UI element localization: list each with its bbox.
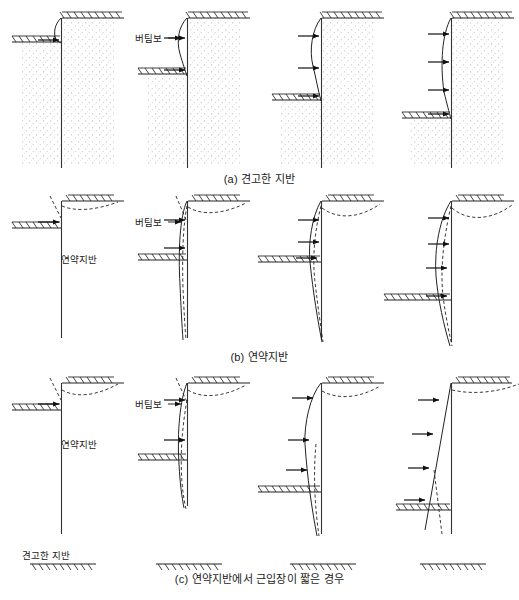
excavation-deformation-figure: 버팀보 버팀보 버팀보 연약지반 연약지반 견고한 지반 (a) 견고한 지반 … <box>0 0 519 600</box>
row-c-panel-4 <box>396 377 519 570</box>
settlement-trough <box>188 385 246 396</box>
row-c-panel-1 <box>12 377 124 570</box>
failure-line <box>176 378 187 402</box>
soft-ground-label-row-b: 연약지반 <box>61 252 97 266</box>
settlement-trough <box>188 203 246 213</box>
settlement-trough <box>62 202 118 209</box>
soft-ground-label-row-c: 연약지반 <box>61 437 97 451</box>
settlement-trough <box>452 205 512 217</box>
strut-label-row-a: 버팀보 <box>135 31 162 45</box>
strut-label-row-c: 버팀보 <box>135 397 162 411</box>
row-b-panel-3 <box>258 195 384 342</box>
row-b-panel-4 <box>384 195 514 346</box>
strut-label-row-b: 버팀보 <box>135 215 162 229</box>
caption-b: (b) 연약지반 <box>0 348 519 364</box>
firm-ground-base-label: 견고한 지반 <box>22 548 70 562</box>
failure-line <box>50 378 61 400</box>
settlement-trough <box>452 384 519 392</box>
caption-a: (a) 견고한 지반 <box>0 170 519 186</box>
row-a-panel-4 <box>402 12 514 168</box>
failure-line <box>50 196 61 218</box>
row-a-panel-3 <box>272 12 384 168</box>
row-c-panel-3 <box>258 377 384 570</box>
caption-c: (c) 연약지반에서 근입장이 짧은 경우 <box>0 570 519 586</box>
row-a-panel-1 <box>12 12 124 168</box>
settlement-trough <box>62 384 118 395</box>
row-b-panel-1 <box>12 195 124 338</box>
settlement-trough <box>322 204 380 216</box>
figure-canvas <box>0 0 519 600</box>
settlement-trough <box>322 386 380 397</box>
